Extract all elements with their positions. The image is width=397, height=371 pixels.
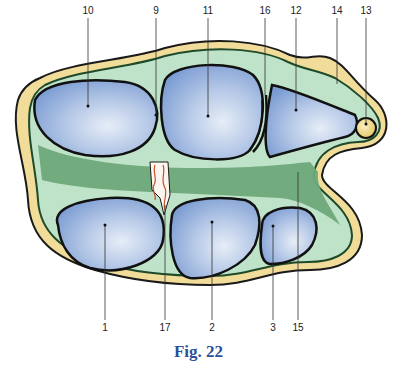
label-9: 9: [153, 5, 159, 16]
label-1: 1: [102, 322, 108, 333]
label-10: 10: [82, 5, 94, 16]
label-2: 2: [209, 322, 215, 333]
label-13: 13: [360, 5, 372, 16]
label-16: 15: [292, 322, 304, 333]
label-15: 16: [259, 5, 271, 16]
label-12: 12: [290, 5, 302, 16]
compartment-1: [57, 198, 164, 270]
label-3: 3: [270, 322, 276, 333]
compartment-11: [161, 65, 263, 159]
anatomical-cross-section-diagram: 10 9 11 16 12 14 13 1 17 2 3 15: [0, 0, 397, 371]
label-17: 17: [159, 322, 171, 333]
label-14: 14: [331, 5, 343, 16]
label-11: 11: [203, 5, 214, 16]
figure-caption: Fig. 22: [0, 342, 397, 362]
